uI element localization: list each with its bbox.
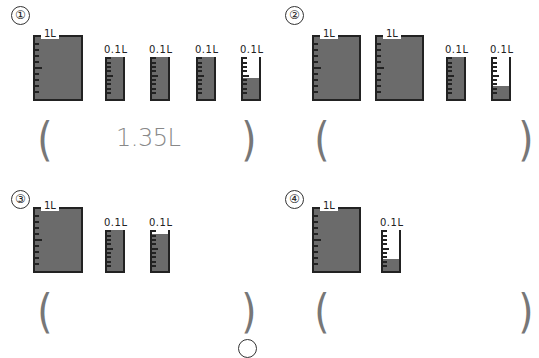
close-paren: ) bbox=[518, 116, 533, 162]
container-0-1l bbox=[491, 57, 511, 101]
capacity-label: 0.1L bbox=[149, 45, 172, 55]
container-0-1l bbox=[196, 57, 216, 101]
capacity-label: 0.1L bbox=[380, 218, 403, 228]
scale-ticks bbox=[448, 57, 454, 99]
container-1l: 1L bbox=[312, 35, 361, 101]
problem-number-2: ② bbox=[285, 6, 304, 25]
open-paren: ( bbox=[314, 288, 329, 334]
close-paren: ) bbox=[518, 288, 533, 334]
container-1l: 1L bbox=[33, 35, 83, 101]
container-1l: 1L bbox=[375, 35, 424, 101]
container-0-1l bbox=[105, 57, 125, 101]
scale-ticks bbox=[107, 230, 113, 271]
scale-ticks bbox=[383, 230, 389, 271]
scale-ticks bbox=[107, 57, 113, 99]
problem-number-4: ④ bbox=[285, 190, 304, 209]
open-paren: ( bbox=[314, 116, 329, 162]
container-1l: 1L bbox=[312, 207, 361, 273]
close-paren: ) bbox=[241, 116, 256, 162]
container-0-1l bbox=[105, 230, 125, 273]
scale-ticks bbox=[152, 57, 158, 99]
scale-ticks bbox=[314, 37, 320, 99]
answer-field-1[interactable]: 1.35L bbox=[116, 124, 180, 152]
scale-ticks bbox=[35, 37, 41, 99]
container-0-1l bbox=[150, 230, 170, 273]
capacity-label: 1L bbox=[320, 29, 338, 39]
container-0-1l bbox=[241, 57, 261, 101]
problem-number-1: ① bbox=[11, 6, 30, 25]
capacity-label: 0.1L bbox=[445, 45, 468, 55]
capacity-label: 1L bbox=[320, 201, 338, 211]
scale-ticks bbox=[152, 230, 158, 271]
capacity-label: 0.1L bbox=[490, 45, 513, 55]
next-problem-number-clipped bbox=[238, 339, 257, 358]
scale-ticks bbox=[377, 37, 383, 99]
capacity-label: 1L bbox=[383, 29, 401, 39]
container-0-1l bbox=[446, 57, 466, 101]
close-paren: ) bbox=[241, 288, 256, 334]
scale-ticks bbox=[493, 57, 499, 99]
capacity-label: 0.1L bbox=[104, 218, 127, 228]
scale-ticks bbox=[198, 57, 204, 99]
scale-ticks bbox=[243, 57, 249, 99]
container-0-1l bbox=[381, 230, 401, 273]
capacity-label: 0.1L bbox=[149, 218, 172, 228]
capacity-label: 1L bbox=[41, 29, 59, 39]
container-1l: 1L bbox=[33, 207, 83, 273]
open-paren: ( bbox=[37, 288, 52, 334]
capacity-label: 0.1L bbox=[195, 45, 218, 55]
capacity-label: 0.1L bbox=[240, 45, 263, 55]
problem-number-3: ③ bbox=[11, 190, 30, 209]
container-0-1l bbox=[150, 57, 170, 101]
scale-ticks bbox=[314, 209, 320, 271]
open-paren: ( bbox=[37, 116, 52, 162]
capacity-label: 0.1L bbox=[104, 45, 127, 55]
scale-ticks bbox=[35, 209, 41, 271]
capacity-label: 1L bbox=[41, 201, 59, 211]
